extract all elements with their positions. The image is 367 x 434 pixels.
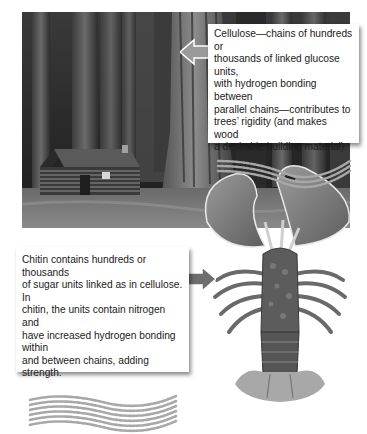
- chitin-line-5: and between chains, adding strength.: [22, 355, 184, 380]
- chitin-line-4: have increased hydrogen bonding within: [22, 330, 184, 355]
- chitin-chain-diagram: [22, 390, 182, 434]
- cellulose-line-3: with hydrogen bonding between: [214, 78, 354, 103]
- lobster-illustration: [195, 162, 365, 407]
- cellulose-chain-diagram: [214, 157, 354, 189]
- cellulose-callout: Cellulose—chains of hundreds or thousand…: [208, 24, 359, 143]
- cellulose-line-2: thousands of linked glucose units,: [214, 53, 354, 78]
- chitin-line-2: of sugar units linked as in cellulose. I…: [22, 279, 184, 304]
- chitin-callout: Chitin contains hundreds or thousands of…: [16, 247, 189, 372]
- cellulose-line-5: trees’ rigidity (and makes wood: [214, 116, 354, 141]
- chitin-line-1: Chitin contains hundreds or thousands: [22, 254, 184, 279]
- cellulose-line-6: a desirable building material).: [214, 141, 354, 154]
- chitin-line-3: chitin, the units contain nitrogen and: [22, 304, 184, 329]
- cellulose-line-4: parallel chains—contributes to: [214, 104, 354, 117]
- log-cabin: [40, 145, 140, 195]
- cellulose-line-1: Cellulose—chains of hundreds or: [214, 28, 354, 53]
